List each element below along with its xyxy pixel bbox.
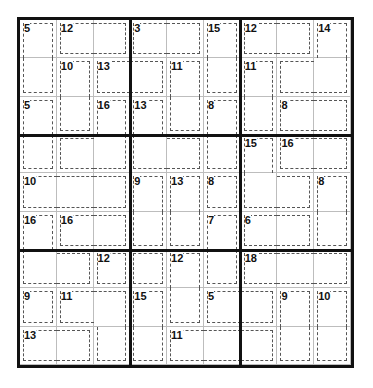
cell-r1c2[interactable]: 13 <box>94 58 131 96</box>
cell-r7c3[interactable]: 15 <box>130 288 167 326</box>
cell-r6c0[interactable] <box>20 250 57 288</box>
cage-outline <box>94 215 127 246</box>
cage-outline <box>94 23 127 54</box>
cell-r4c6[interactable] <box>241 173 278 211</box>
cell-r1c0[interactable] <box>20 58 57 96</box>
cell-r8c7[interactable] <box>277 327 314 365</box>
cell-r5c1[interactable]: 16 <box>57 212 94 250</box>
cell-r6c3[interactable] <box>130 250 167 288</box>
cell-r1c3[interactable] <box>130 58 167 96</box>
cell-r6c7[interactable] <box>277 250 314 288</box>
cell-r0c2[interactable] <box>94 20 131 58</box>
cell-r0c4[interactable] <box>167 20 204 58</box>
cage-sum: 9 <box>24 290 30 302</box>
cell-r1c1[interactable]: 10 <box>57 58 94 96</box>
cage-outline <box>133 327 163 361</box>
cell-r5c6[interactable]: 6 <box>241 212 278 250</box>
cell-r2c8[interactable] <box>314 97 351 135</box>
cell-r4c3[interactable]: 9 <box>130 173 167 211</box>
cell-r8c0[interactable]: 13 <box>20 327 57 365</box>
cell-r5c0[interactable]: 16 <box>20 212 57 250</box>
cell-r1c8[interactable] <box>314 58 351 96</box>
cell-r3c4[interactable] <box>167 135 204 173</box>
cell-r8c3[interactable] <box>130 327 167 365</box>
cell-r8c5[interactable] <box>204 327 241 365</box>
cell-r3c0[interactable] <box>20 135 57 173</box>
cell-r7c7[interactable]: 9 <box>277 288 314 326</box>
cage-sum: 15 <box>245 137 257 149</box>
cage-sum: 11 <box>171 60 183 72</box>
cell-r8c8[interactable] <box>314 327 351 365</box>
cell-r7c4[interactable] <box>167 288 204 326</box>
cell-r5c8[interactable] <box>314 212 351 250</box>
cell-r4c1[interactable] <box>57 173 94 211</box>
cell-r4c5[interactable]: 8 <box>204 173 241 211</box>
cell-r5c3[interactable] <box>130 212 167 250</box>
cage-sum: 8 <box>208 175 214 187</box>
cell-r3c3[interactable] <box>130 135 167 173</box>
cell-r3c6[interactable]: 15 <box>241 135 278 173</box>
cell-r4c0[interactable]: 10 <box>20 173 57 211</box>
cell-r3c2[interactable] <box>94 135 131 173</box>
cell-r0c6[interactable]: 12 <box>241 20 278 58</box>
cage-outline <box>207 135 237 169</box>
cell-r0c0[interactable]: 5 <box>20 20 57 58</box>
cell-r2c3[interactable]: 13 <box>130 97 167 135</box>
cell-r8c6[interactable] <box>241 327 278 365</box>
cell-r0c3[interactable]: 3 <box>130 20 167 58</box>
cell-r2c7[interactable]: 8 <box>277 97 314 135</box>
cell-r2c6[interactable] <box>241 97 278 135</box>
cell-r1c4[interactable]: 11 <box>167 58 204 96</box>
cell-r6c1[interactable] <box>57 250 94 288</box>
cell-r3c7[interactable]: 16 <box>277 135 314 173</box>
cage-sum: 7 <box>208 214 214 226</box>
cage-outline <box>133 212 163 246</box>
cell-r2c0[interactable]: 5 <box>20 97 57 135</box>
cage-sum: 8 <box>208 99 214 111</box>
cell-r2c5[interactable]: 8 <box>204 97 241 135</box>
cell-r0c8[interactable]: 14 <box>314 20 351 58</box>
cage-outline <box>97 327 127 361</box>
cage-outline <box>207 250 237 284</box>
cell-r6c2[interactable]: 12 <box>94 250 131 288</box>
cell-r8c4[interactable]: 11 <box>167 327 204 365</box>
cage-sum: 5 <box>24 99 30 111</box>
cell-r7c6[interactable] <box>241 288 278 326</box>
cell-r7c8[interactable]: 10 <box>314 288 351 326</box>
cell-r5c4[interactable] <box>167 212 204 250</box>
cell-r7c5[interactable]: 5 <box>204 288 241 326</box>
cage-outline <box>244 173 278 207</box>
cell-r3c1[interactable] <box>57 135 94 173</box>
cage-outline <box>280 61 314 92</box>
cell-r6c8[interactable] <box>314 250 351 288</box>
cell-r3c5[interactable] <box>204 135 241 173</box>
cell-r7c0[interactable]: 9 <box>20 288 57 326</box>
cell-r7c1[interactable]: 11 <box>57 288 94 326</box>
cell-r3c8[interactable] <box>314 135 351 173</box>
cell-r1c7[interactable] <box>277 58 314 96</box>
cell-r6c4[interactable]: 12 <box>167 250 204 288</box>
cell-r1c6[interactable]: 11 <box>241 58 278 96</box>
cell-r4c2[interactable] <box>94 173 131 211</box>
cell-r6c5[interactable] <box>204 250 241 288</box>
cell-r4c7[interactable] <box>277 173 314 211</box>
cell-r0c1[interactable]: 12 <box>57 20 94 58</box>
cell-r2c4[interactable] <box>167 97 204 135</box>
cage-outline <box>130 61 163 92</box>
cell-r4c4[interactable]: 13 <box>167 173 204 211</box>
cell-r4c8[interactable]: 8 <box>314 173 351 211</box>
cell-r2c1[interactable] <box>57 97 94 135</box>
cell-r7c2[interactable] <box>94 288 131 326</box>
cell-r5c2[interactable] <box>94 212 131 250</box>
cell-r1c5[interactable] <box>204 58 241 96</box>
cell-r0c5[interactable]: 15 <box>204 20 241 58</box>
cage-outline <box>167 138 200 169</box>
cell-r5c5[interactable]: 7 <box>204 212 241 250</box>
cage-outline <box>57 253 90 284</box>
cell-r0c7[interactable] <box>277 20 314 58</box>
cell-r8c1[interactable] <box>57 327 94 365</box>
cell-r5c7[interactable] <box>277 212 314 250</box>
cell-r8c2[interactable] <box>94 327 131 365</box>
cell-r6c6[interactable]: 18 <box>241 250 278 288</box>
cell-r2c2[interactable]: 16 <box>94 97 131 135</box>
